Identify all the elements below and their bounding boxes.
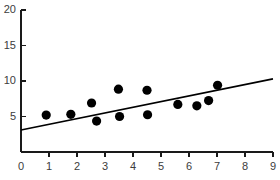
x-axis-tick-labels: 0123456789 bbox=[18, 160, 276, 172]
x-tick-label: 6 bbox=[186, 160, 192, 172]
data-point bbox=[42, 110, 51, 119]
x-tick-label: 5 bbox=[158, 160, 164, 172]
data-point bbox=[115, 112, 124, 121]
plot-canvas: 5101520 0123456789 bbox=[0, 0, 280, 180]
data-points-group bbox=[42, 81, 223, 126]
data-point bbox=[92, 117, 101, 126]
x-tick-label: 4 bbox=[130, 160, 136, 172]
data-point bbox=[114, 85, 123, 94]
data-point bbox=[204, 96, 213, 105]
data-point bbox=[213, 81, 222, 90]
x-tick-label: 3 bbox=[102, 160, 108, 172]
y-axis-tick-labels: 5101520 bbox=[4, 3, 16, 122]
data-point bbox=[192, 101, 201, 110]
data-point bbox=[173, 100, 182, 109]
x-tick-label: 8 bbox=[242, 160, 248, 172]
scatter-plot-figure: 5101520 0123456789 bbox=[0, 0, 280, 180]
axis-tick-marks bbox=[21, 10, 273, 157]
y-tick-label: 20 bbox=[4, 3, 16, 15]
data-point bbox=[143, 110, 152, 119]
y-tick-label: 5 bbox=[10, 110, 16, 122]
x-tick-label: 9 bbox=[270, 160, 276, 172]
x-tick-label: 1 bbox=[46, 160, 52, 172]
data-point bbox=[87, 98, 96, 107]
y-tick-label: 10 bbox=[4, 74, 16, 86]
x-tick-label: 2 bbox=[74, 160, 80, 172]
y-tick-label: 15 bbox=[4, 39, 16, 51]
x-tick-label: 7 bbox=[214, 160, 220, 172]
data-point bbox=[66, 110, 75, 119]
data-point bbox=[142, 86, 151, 95]
x-tick-label: 0 bbox=[18, 160, 24, 172]
